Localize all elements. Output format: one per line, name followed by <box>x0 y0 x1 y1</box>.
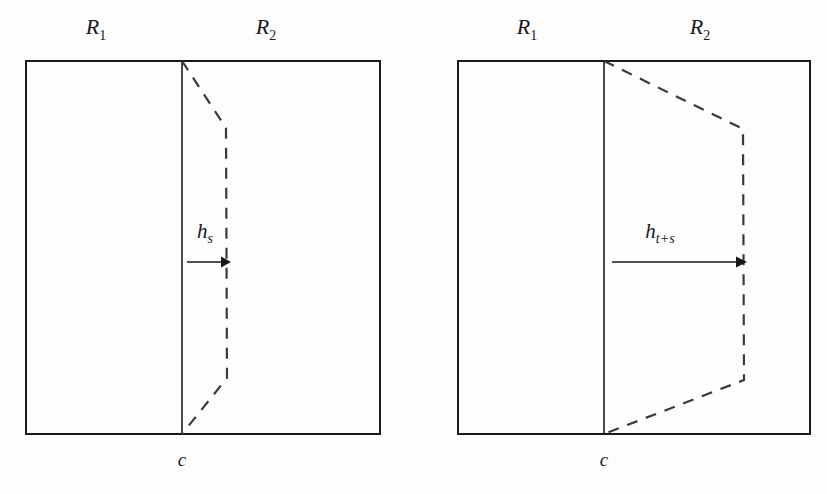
panel-hts-flow-label: ht+s <box>645 219 675 246</box>
panel-hts-flow-arrow <box>612 257 747 268</box>
panel-hs-dashed-deformed-interface <box>182 61 227 434</box>
panel-hts-interface-label: c <box>600 449 609 470</box>
panel-hs: R1 R2 hs c <box>26 14 380 470</box>
panel-hts-dashed-deformed-interface <box>604 61 744 434</box>
panel-hs-flow-label: hs <box>197 219 214 246</box>
panel-hts-boundary-rect <box>458 61 810 434</box>
panel-hts-region-right-label: R2 <box>689 14 710 43</box>
panel-hts-region-left-label: R1 <box>516 14 537 43</box>
panel-hs-boundary-rect <box>26 61 380 434</box>
panel-hts: R1 R2 ht+s c <box>458 14 810 470</box>
panel-hs-region-left-label: R1 <box>85 14 106 43</box>
figure-container: R1 R2 hs c R1 R2 <box>0 0 827 494</box>
panel-hs-interface-label: c <box>178 449 187 470</box>
panel-hs-flow-arrow <box>187 257 231 268</box>
panel-hs-region-right-label: R2 <box>255 14 276 43</box>
diagram-canvas: R1 R2 hs c R1 R2 <box>0 0 827 494</box>
